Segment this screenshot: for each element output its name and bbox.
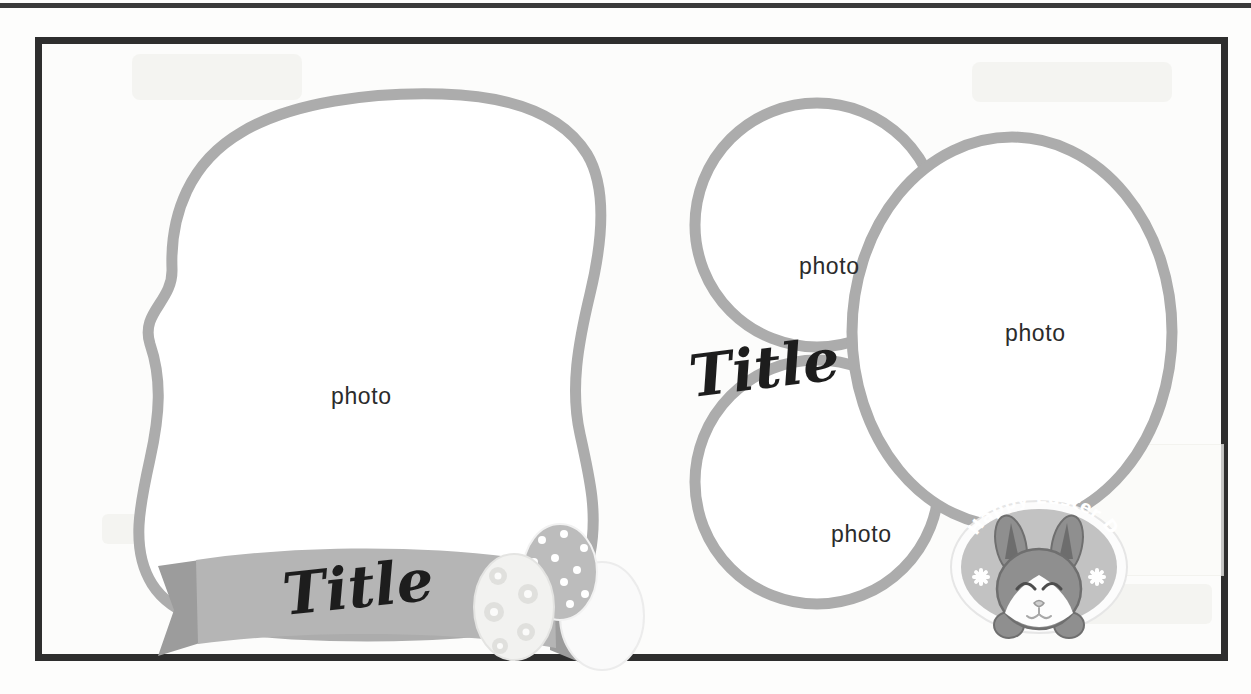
right-panel-title: Title [686, 330, 843, 406]
easter-egg-cluster [442, 504, 662, 694]
scanned-page: photo Title [0, 0, 1251, 694]
right-photo-label-2: photo [1005, 320, 1066, 347]
left-photo-label: photo [331, 383, 392, 410]
layout-sheet-frame: photo Title [35, 37, 1228, 661]
top-edge-strip [0, 3, 1251, 8]
right-photo-label-1: photo [799, 253, 860, 280]
easter-bunny-sticker: Happy Easter Day [935, 479, 1145, 659]
right-photo-label-3: photo [831, 521, 892, 548]
left-ribbon-title: Title [280, 551, 436, 624]
